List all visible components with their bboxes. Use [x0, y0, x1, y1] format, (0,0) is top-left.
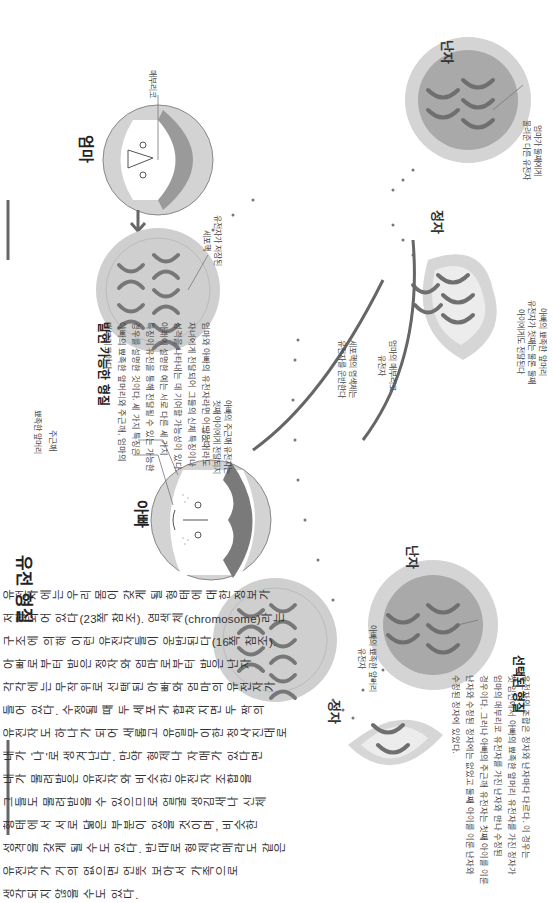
callout-pointed-hairline: 뾰족한 앞머리: [32, 410, 43, 454]
selected-traits-line: 경우이다. 그러나 아빠의 주근깨 유전자는 첫째 아이를 이룬: [477, 675, 491, 903]
possible-traits-line: 특징이 유전을 통해 전달될 수 있는 가능한: [143, 322, 157, 522]
callout-freckles: 주근깨: [47, 430, 58, 451]
callout-mom-nose-gene: 엄마의 매부리코 유전자: [376, 340, 398, 391]
egg-label-2: 난자: [439, 40, 458, 64]
possible-traits-line: 아빠의 뾰족한 앞머리와 주근깨, 엄마의: [115, 322, 129, 522]
main-text-line: 들어 있다. 수정될 때 두 세포가 합쳐지면 두 짝의: [3, 700, 358, 723]
callout-line-text: 엄마가 둘째에게: [532, 120, 543, 180]
selected-traits-line: 엄마의 매부리코 유전자를 가진 난자와 만나 수정된: [491, 675, 505, 903]
main-text-line: 구조에 의해 이런 유전자들이 운반된다(16쪽 참조).: [3, 631, 358, 654]
possible-traits-line: 경우를 설명한 것이다. 세 가지 특징은: [129, 322, 143, 522]
callout-chromosomes-carry: 세포핵의 염색체는 유전자를 운반한다: [336, 340, 358, 398]
dad-label: 아빠: [132, 500, 153, 528]
possible-traits-line: 매부리코이다.: [101, 322, 115, 522]
main-text-line: 각각에는 무작위로 선택된 아빠와 엄마의 유전자가: [3, 677, 358, 700]
egg-label-1: 난자: [404, 545, 423, 569]
callout-line-text: 아빠의 뾰족한 앞머리: [537, 300, 548, 384]
callout-line-text: 아빠의 뾰족한 앞머리: [367, 625, 378, 692]
main-text-line: 유전자도 하나가 되어 새롭고 유일무이한 청사진대로: [3, 723, 358, 746]
sperm-cell-2: [423, 254, 497, 360]
main-text-line: 저장되어 있다(23쪽 참조). 염색체(chromosome)라는: [3, 608, 358, 631]
callout-line-text: 유전자가 저장된: [212, 215, 223, 266]
sperm-label-1: 정자: [326, 700, 345, 724]
selected-traits-line: 유전자의 조합은 정자와 난자마다 다르다. 이 경우는: [519, 675, 533, 903]
sperm-label-2: 정자: [429, 210, 448, 234]
callout-nucleus: 유전자가 저장된 세포핵: [201, 215, 223, 266]
callout-line-text: 엄마의 매부리코: [387, 340, 398, 391]
main-text-line: 형태에서 서로 닮은 부분이 있을 것이며, 비슷한: [3, 815, 358, 838]
main-text: 유전자에는 우리 몸이 갖게 될 형태에 대한 정보가 저장되어 있다(23쪽 …: [3, 585, 358, 830]
mom-label: 엄마: [77, 135, 98, 163]
main-text-line: 유전자가 거의 없으면 언뜻 보아서 가족으로: [3, 861, 358, 884]
egg-cell-2: [405, 37, 531, 163]
possible-traits-line: 자녀에게 전달되어 그들의 신체 특징이나: [185, 322, 199, 522]
possible-traits-text: 엄마와 아빠의 유전자라면 어느 것이라도 자녀에게 전달되어 그들의 신체 특…: [101, 322, 213, 522]
main-text-line: 그들도 물려받을 수 있으므로 얼굴 생김새나 신체: [3, 792, 358, 815]
egg-cell-1: [368, 560, 498, 690]
callout-mom-other-gene: 엄마가 둘째에게 물려준 다른 유전자: [521, 120, 543, 180]
callout-line-text: 유전자가 첫째는 물론 둘째: [526, 300, 537, 384]
callout-line-text: 세포핵: [201, 215, 212, 266]
main-text-line: 유전자에는 우리 몸이 갖게 될 형태에 대한 정보가: [3, 585, 358, 608]
callout-dad-freckle-not-passed: 아빠의 주근깨 유전자는 첫째 아이에게 전달되지 않는다: [200, 400, 233, 474]
callout-line-text: 아빠의 주근깨 유전자는: [222, 400, 233, 474]
main-text-line: 성격을 갖게 될 수도 있다. 반대로 형제자매라도 같은: [3, 838, 358, 861]
callout-line-text: 세포핵의 염색체는: [347, 340, 358, 398]
callout-line-text: 않는다: [200, 400, 211, 474]
callout-line-text: 유전자: [376, 340, 387, 391]
callout-line-text: 유전자를 운반한다: [336, 340, 347, 398]
possible-traits-line: 아래에 설명한 예는 서로 다른 세 가지: [157, 322, 171, 522]
selected-traits-line: 난자와 수정된 정자에는 없었고 둘째 아이를 이룬 난자와: [463, 675, 477, 903]
callout-dad-hairline-gene: 아빠의 뾰족한 앞머리 유전자: [356, 625, 378, 692]
callout-line-text: 첫째 아이에게 전달되지: [211, 400, 222, 474]
callout-hooked-nose: 매부리코: [147, 70, 158, 98]
callout-line-text: 유전자: [356, 625, 367, 692]
callout-line-text: 물려준 다른 유전자: [521, 120, 532, 180]
sperm-cell-1: [348, 720, 443, 766]
selected-traits-text: 유전자의 조합은 정자와 난자마다 다르다. 이 경우는 첫 임신에서 아빠의 …: [449, 675, 533, 903]
main-text-line: 아빠로부터 받은 정자와 엄마로부터 받은 난자: [3, 654, 358, 677]
possible-traits-line: 성격을 나타내는 데 기여할 가능성이 있다.: [171, 322, 185, 522]
selected-traits-line: 수정된 정자에 있었다.: [449, 675, 463, 903]
callout-line-text: 아이에게도 전달된다: [515, 300, 526, 384]
selected-traits-line: 첫 임신에서 아빠의 뾰족한 앞머리 유전자를 가진 정자가: [505, 675, 519, 903]
main-text-line: 생각되지 않을 수도 있다.: [3, 884, 358, 903]
main-text-line: 내가 물려받은 유전자와 비슷한 유전자 조합을: [3, 769, 358, 792]
main-text-line: 내가 '나'로 생겨난다. 만약 형제나 자매가 있다면: [3, 746, 358, 769]
callout-dad-hairline-both: 아빠의 뾰족한 앞머리 유전자가 첫째는 물론 둘째 아이에게도 전달된다: [515, 300, 548, 384]
